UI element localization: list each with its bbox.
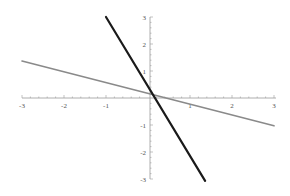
x-tick-label: 2 bbox=[230, 102, 234, 110]
x-tick-label: -2 bbox=[61, 102, 67, 110]
x-tick-label: -3 bbox=[19, 102, 25, 110]
y-tick-label: 3 bbox=[143, 14, 147, 22]
line-chart: -3-2-1123-3-2-1123 bbox=[0, 0, 290, 196]
y-tick-label: -2 bbox=[140, 149, 146, 157]
y-tick-label: -1 bbox=[140, 122, 146, 130]
tick-labels: -3-2-1123-3-2-1123 bbox=[19, 14, 276, 184]
x-tick-label: -1 bbox=[103, 102, 109, 110]
series bbox=[22, 17, 274, 181]
axes bbox=[22, 17, 276, 179]
y-tick-label: 1 bbox=[143, 68, 147, 76]
series-line-black bbox=[106, 17, 205, 181]
series-line-gray bbox=[22, 61, 274, 126]
x-tick-label: 3 bbox=[272, 102, 276, 110]
y-tick-label: -3 bbox=[140, 176, 146, 184]
y-tick-label: 2 bbox=[143, 41, 147, 49]
